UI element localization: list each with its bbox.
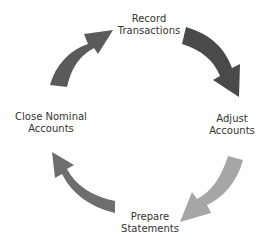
arrow-prepare-to-close-icon — [52, 152, 115, 213]
step-label-line1: Record — [118, 13, 180, 25]
step-adjust-accounts: Adjust Accounts — [209, 113, 255, 137]
accounting-cycle-diagram: Record Transactions Adjust Accounts Prep… — [0, 0, 275, 242]
step-label-line2: Transactions — [118, 25, 180, 37]
step-prepare-statements: Prepare Statements — [121, 211, 179, 235]
step-label-line1: Adjust — [209, 113, 255, 125]
step-label-line2: Accounts — [15, 123, 87, 135]
step-label-line2: Statements — [121, 223, 179, 235]
step-label-line1: Prepare — [121, 211, 179, 223]
arrow-close-to-record-icon — [50, 30, 113, 87]
step-label-line1: Close Nominal — [15, 111, 87, 123]
step-label-line2: Accounts — [209, 125, 255, 137]
step-record-transactions: Record Transactions — [118, 13, 180, 37]
step-close-nominal-accounts: Close Nominal Accounts — [15, 111, 87, 135]
arrow-record-to-adjust-icon — [182, 27, 240, 97]
arrow-adjust-to-prepare-icon — [180, 156, 243, 222]
